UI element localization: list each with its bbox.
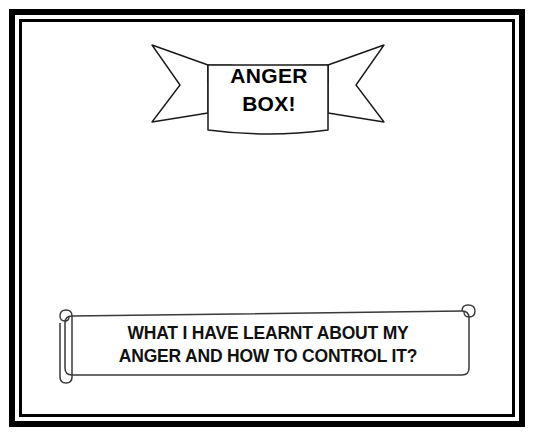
scroll-question-text: WHAT I HAVE LEARNT ABOUT MY ANGER AND HO… (78, 322, 458, 368)
banner-title-line-2: BOX! (207, 90, 331, 118)
scroll-question-line-1: WHAT I HAVE LEARNT ABOUT MY (78, 322, 458, 345)
banner-title: ANGER BOX! (207, 62, 331, 118)
banner-right-tail (328, 45, 384, 122)
banner-left-tail (152, 45, 208, 122)
worksheet-page: ANGER BOX! WHAT I HAVE LEARNT ABOUT MY A… (0, 0, 534, 436)
worksheet-canvas: ANGER BOX! WHAT I HAVE LEARNT ABOUT MY A… (0, 0, 534, 436)
banner-title-line-1: ANGER (207, 62, 331, 90)
scroll-question-line-2: ANGER AND HOW TO CONTROL IT? (78, 345, 458, 368)
